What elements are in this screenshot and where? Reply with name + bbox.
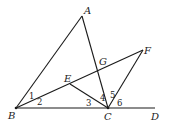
segment-AB [16, 16, 82, 108]
angle-label-2: 2 [37, 97, 42, 107]
point-B-dot [15, 107, 18, 110]
angle-label-1: 1 [29, 91, 34, 101]
point-C-dot [107, 107, 110, 110]
angle-label-5: 5 [110, 90, 115, 100]
angle-label-4: 4 [100, 93, 105, 103]
label-E: E [63, 73, 72, 84]
label-A: A [83, 5, 91, 16]
label-D: D [150, 111, 159, 122]
geometry-diagram: A B C D E F G 1 2 3 4 5 6 [0, 0, 169, 137]
angle-label-3: 3 [86, 98, 91, 108]
label-G: G [99, 56, 107, 67]
label-F: F [143, 45, 152, 56]
label-C: C [104, 111, 112, 122]
segment-BF [16, 50, 143, 108]
label-B: B [7, 110, 15, 121]
angle-label-6: 6 [117, 98, 122, 108]
